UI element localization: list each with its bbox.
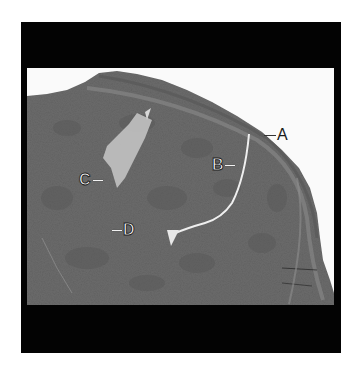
tissue-section bbox=[27, 68, 334, 305]
label-d-leader bbox=[112, 230, 122, 231]
label-c: C bbox=[79, 172, 91, 188]
label-b-leader bbox=[225, 165, 235, 166]
label-d: D bbox=[123, 222, 135, 238]
label-c-leader bbox=[93, 180, 103, 181]
micrograph-image bbox=[27, 68, 334, 305]
label-a: A bbox=[277, 127, 288, 143]
label-a-leader bbox=[264, 135, 276, 136]
label-b: B bbox=[212, 157, 224, 173]
